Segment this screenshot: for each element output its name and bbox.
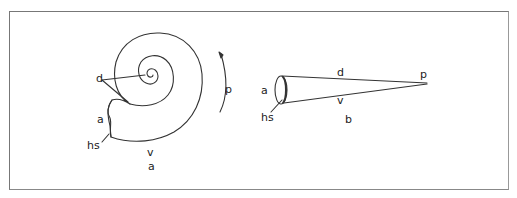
leader-hs-a bbox=[102, 134, 109, 142]
label-v-a: v bbox=[147, 147, 154, 158]
leader-d-1 bbox=[102, 75, 145, 80]
label-d-b: d bbox=[337, 67, 344, 78]
label-d-a: d bbox=[96, 73, 103, 84]
cone-aperture-rim bbox=[283, 77, 286, 103]
outer-whorl bbox=[108, 33, 202, 141]
caption-b: b bbox=[345, 114, 352, 125]
label-a-b: a bbox=[261, 85, 268, 96]
label-p-b: p bbox=[420, 69, 427, 80]
inner-whorl bbox=[130, 56, 173, 106]
label-p-a: p bbox=[225, 84, 232, 95]
caption-a: a bbox=[148, 161, 155, 172]
shell-diagram bbox=[0, 0, 517, 198]
label-hs-b: hs bbox=[261, 112, 274, 123]
cone-dorsal-edge bbox=[282, 76, 427, 83]
cone-ventral-edge bbox=[284, 84, 427, 103]
label-hs-a: hs bbox=[87, 140, 100, 151]
label-a-a: a bbox=[97, 114, 104, 125]
label-v-b: v bbox=[337, 95, 344, 106]
